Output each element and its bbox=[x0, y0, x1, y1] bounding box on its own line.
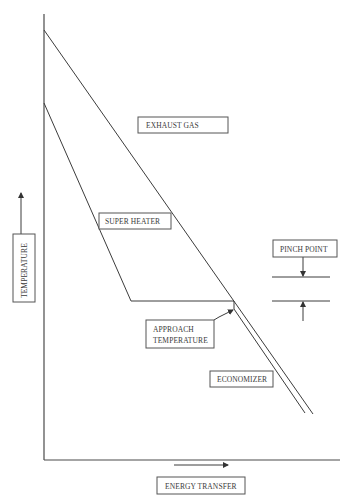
economizer-text: ECONOMIZER bbox=[217, 375, 267, 384]
label-super-heater: SUPER HEATER bbox=[99, 213, 171, 229]
energy-transfer-text: ENERGY TRANSFER bbox=[165, 482, 237, 491]
exhaust-gas-text: EXHAUST GAS bbox=[146, 121, 199, 130]
label-exhaust-gas: EXHAUST GAS bbox=[138, 117, 228, 133]
pinch-point-text: PINCH POINT bbox=[280, 245, 328, 254]
approach-text-line1: APPROACH bbox=[153, 325, 194, 334]
label-pinch-point: PINCH POINT bbox=[273, 240, 337, 257]
super-heater-text: SUPER HEATER bbox=[105, 217, 160, 226]
label-economizer: ECONOMIZER bbox=[210, 371, 273, 387]
temperature-text: TEMPERATURE bbox=[20, 243, 29, 298]
water-steam-line bbox=[44, 103, 305, 413]
approach-pointer-arrow-icon bbox=[214, 310, 233, 320]
label-temperature: TEMPERATURE bbox=[13, 234, 35, 302]
approach-text-line2: TEMPERATURE bbox=[153, 336, 208, 345]
label-approach-temperature: APPROACH TEMPERATURE bbox=[146, 320, 214, 348]
exhaust-gas-line bbox=[44, 30, 313, 414]
axes bbox=[44, 14, 340, 460]
label-energy-transfer: ENERGY TRANSFER bbox=[157, 477, 245, 494]
temperature-energy-diagram: EXHAUST GAS SUPER HEATER PINCH POINT APP… bbox=[0, 0, 351, 499]
